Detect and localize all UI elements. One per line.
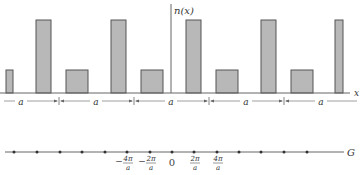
lattice-point [126, 151, 129, 154]
density-bars [6, 20, 343, 93]
tall-bar [335, 20, 343, 93]
tall-bar [261, 20, 276, 93]
lattice-point [149, 151, 152, 154]
lattice-point [260, 151, 263, 154]
x-axis-label: x [354, 88, 359, 98]
lattice-point [283, 151, 286, 154]
lattice-point [238, 151, 241, 154]
lattice-point [193, 151, 196, 154]
arrowhead-icon [135, 100, 139, 103]
arrowhead-icon [285, 100, 289, 103]
tick-label-zero: 0 [169, 157, 175, 168]
tick-denominator: a [193, 164, 197, 172]
arrowhead-icon [129, 100, 133, 103]
diagram-canvas: n(x) x aaaaa −4πa−2πa02πa4πa G [0, 0, 364, 175]
tall-bar [111, 20, 126, 93]
lattice-point [216, 151, 219, 154]
lattice-point [13, 151, 16, 154]
lattice-point [171, 151, 174, 154]
period-label: a [318, 97, 323, 107]
tick-numerator: 4π [212, 155, 222, 163]
g-axis-label: G [347, 147, 355, 158]
arrowhead-icon [60, 100, 64, 103]
tall-bar [36, 20, 51, 93]
tick-denominator: a [149, 164, 153, 172]
tick-numerator: 4π [122, 155, 132, 163]
minus-sign: − [138, 156, 146, 166]
lattice-point [59, 151, 62, 154]
arrowhead-icon [279, 100, 283, 103]
short-bar [141, 70, 163, 93]
short-bar [6, 70, 13, 93]
y-axis-label: n(x) [174, 5, 194, 16]
short-bar [66, 70, 88, 93]
period-label: a [168, 97, 173, 107]
arrowhead-icon [210, 100, 214, 103]
minus-sign: − [115, 156, 123, 166]
period-label: a [18, 97, 23, 107]
tick-numerator: 2π [145, 155, 155, 163]
short-bar [216, 70, 238, 93]
lattice-point [306, 151, 309, 154]
tick-denominator: a [216, 164, 220, 172]
tick-numerator: 2π [189, 155, 199, 163]
lattice-point [81, 151, 84, 154]
period-label: a [93, 97, 98, 107]
arrowhead-icon [54, 100, 58, 103]
tall-bar [186, 20, 201, 93]
lattice-point [104, 151, 107, 154]
arrowhead-icon [204, 100, 208, 103]
period-dimension-lines: aaaaa [4, 97, 357, 107]
short-bar [291, 70, 313, 93]
period-label: a [243, 97, 248, 107]
tick-denominator: a [126, 164, 130, 172]
lattice-point [36, 151, 39, 154]
reciprocal-tick-labels: −4πa−2πa02πa4πa [115, 155, 223, 172]
